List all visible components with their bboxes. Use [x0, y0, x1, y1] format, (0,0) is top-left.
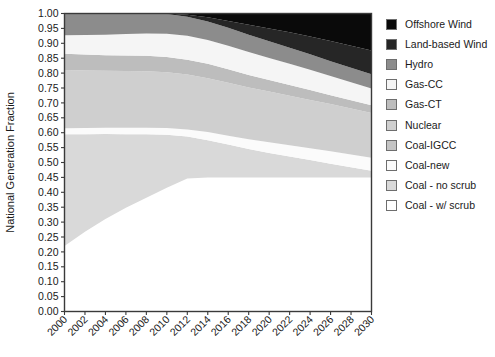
area-stack	[65, 14, 372, 312]
x-tick-label: 2002	[65, 313, 90, 338]
x-tick-label: 2018	[229, 313, 254, 338]
legend-item-label: Gas-CT	[405, 99, 442, 110]
legend-item-label: Hydro	[405, 59, 433, 70]
y-tick-label: 0.65	[38, 111, 59, 123]
x-tick-label: 2024	[290, 313, 315, 338]
y-axis-title: National Generation Fraction	[4, 92, 16, 233]
legend-item-label: Offshore Wind	[405, 19, 472, 30]
x-tick-label: 2012	[167, 313, 192, 338]
y-tick-label: 0.95	[38, 22, 59, 34]
legend-item[interactable]: Hydro	[386, 54, 495, 74]
x-tick-label: 2030	[351, 313, 376, 338]
y-tick-label: 0.80	[38, 67, 59, 79]
x-tick-label: 2026	[310, 313, 335, 338]
legend-item-label: Coal - w/ scrub	[405, 200, 475, 211]
y-tick-label: 0.50	[38, 156, 59, 168]
x-tick-label: 2010	[147, 313, 172, 338]
y-tick-label: 0.70	[38, 97, 59, 109]
x-axis: 2000200220042006200820102012201420162018…	[44, 312, 376, 338]
y-tick-label: 0.00	[38, 305, 59, 317]
legend-item-label: Gas-CC	[405, 79, 443, 90]
y-tick-label: 0.75	[38, 82, 59, 94]
legend-swatch-icon	[386, 160, 397, 171]
legend-item[interactable]: Land-based Wind	[386, 34, 495, 54]
x-tick-label: 2020	[249, 313, 274, 338]
legend-item[interactable]: Gas-CC	[386, 75, 495, 95]
y-tick-label: 0.85	[38, 52, 59, 64]
legend-item[interactable]: Coal-new	[386, 155, 495, 175]
x-tick-label: 2004	[85, 313, 110, 338]
x-tick-label: 2022	[270, 313, 295, 338]
x-tick-label: 2008	[126, 313, 151, 338]
y-tick-label: 0.55	[38, 141, 59, 153]
legend-swatch-icon	[386, 99, 397, 110]
chart-legend: Offshore WindLand-based WindHydroGas-CCG…	[386, 14, 495, 216]
y-tick-label: 0.05	[38, 290, 59, 302]
legend-swatch-icon	[386, 39, 397, 50]
y-axis: 0.000.050.100.150.200.250.300.350.400.45…	[38, 7, 64, 317]
legend-swatch-icon	[386, 180, 397, 191]
y-tick-label: 0.25	[38, 231, 59, 243]
legend-swatch-icon	[386, 140, 397, 151]
y-tick-label: 0.40	[38, 186, 59, 198]
y-tick-label: 0.45	[38, 171, 59, 183]
x-tick-label: 2016	[208, 313, 233, 338]
legend-item-label: Nuclear	[405, 120, 441, 131]
legend-item[interactable]: Coal-IGCC	[386, 135, 495, 155]
y-tick-label: 0.30	[38, 216, 59, 228]
legend-item-label: Coal-IGCC	[405, 140, 456, 151]
legend-item[interactable]: Coal - no scrub	[386, 176, 495, 196]
legend-swatch-icon	[386, 19, 397, 30]
legend-swatch-icon	[386, 59, 397, 70]
legend-swatch-icon	[386, 120, 397, 131]
legend-swatch-icon	[386, 200, 397, 211]
legend-item-label: Coal-new	[405, 160, 449, 171]
legend-item[interactable]: Gas-CT	[386, 95, 495, 115]
y-tick-label: 0.10	[38, 275, 59, 287]
y-tick-label: 0.90	[38, 37, 59, 49]
legend-item[interactable]: Offshore Wind	[386, 14, 495, 34]
y-tick-label: 0.60	[38, 126, 59, 138]
legend-item[interactable]: Coal - w/ scrub	[386, 196, 495, 216]
x-tick-label: 2006	[106, 313, 131, 338]
x-tick-label: 2028	[331, 313, 356, 338]
x-tick-label: 2014	[188, 313, 213, 338]
legend-item-label: Coal - no scrub	[405, 180, 476, 191]
y-tick-label: 0.15	[38, 260, 59, 272]
legend-swatch-icon	[386, 79, 397, 90]
y-tick-label: 0.35	[38, 201, 59, 213]
chart-figure: 0.000.050.100.150.200.250.300.350.400.45…	[0, 0, 495, 357]
y-tick-label: 0.20	[38, 246, 59, 258]
legend-item[interactable]: Nuclear	[386, 115, 495, 135]
legend-item-label: Land-based Wind	[405, 39, 487, 50]
y-tick-label: 1.00	[38, 7, 59, 19]
